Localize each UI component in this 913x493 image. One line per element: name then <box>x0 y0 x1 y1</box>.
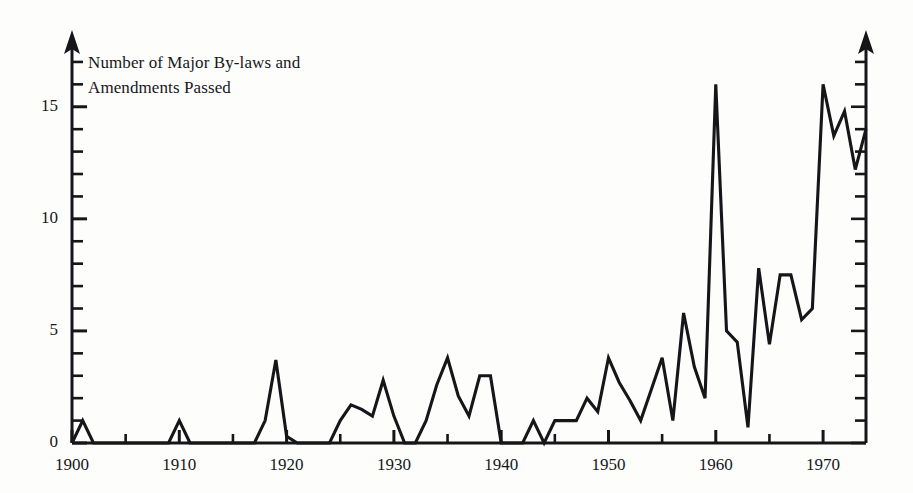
chart-title-line-1: Number of Major By-laws and <box>88 50 300 75</box>
x-tick-label-1910: 1910 <box>149 455 209 475</box>
x-tick-label-1900: 1900 <box>42 455 102 475</box>
y-tick-label-0: 0 <box>14 432 58 452</box>
x-tick-label-1950: 1950 <box>578 455 638 475</box>
data-series-line <box>72 84 866 443</box>
chart-title-line-2: Amendments Passed <box>88 75 300 100</box>
x-tick-label-1930: 1930 <box>364 455 424 475</box>
x-tick-label-1970: 1970 <box>793 455 853 475</box>
chart-axis-title: Number of Major By-laws andAmendments Pa… <box>88 50 300 100</box>
right-y-axis-ticks <box>851 62 866 443</box>
x-tick-label-1920: 1920 <box>257 455 317 475</box>
chart-figure: Number of Major By-laws andAmendments Pa… <box>0 0 913 493</box>
y-tick-label-10: 10 <box>14 208 58 228</box>
y-tick-label-15: 15 <box>14 96 58 116</box>
x-tick-label-1940: 1940 <box>471 455 531 475</box>
x-tick-label-1960: 1960 <box>686 455 746 475</box>
y-axis-ticks <box>72 62 87 443</box>
y-tick-label-5: 5 <box>14 320 58 340</box>
